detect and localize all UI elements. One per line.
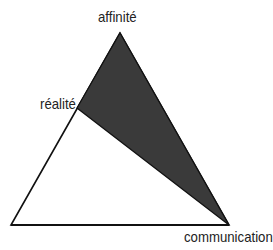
triangle-graphic [0,0,273,250]
label-affinite: affinité [98,8,137,25]
label-realite: réalité [40,95,76,112]
arc-triangle-diagram: affinité réalité communication [0,0,273,250]
label-communication: communication [184,228,273,245]
